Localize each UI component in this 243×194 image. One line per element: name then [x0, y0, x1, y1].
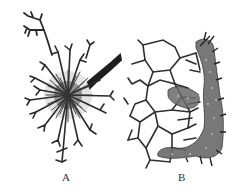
panel-label-a: A [62, 172, 70, 183]
panel-b-stipple-mass [158, 32, 226, 166]
illustration-figure [0, 0, 243, 194]
panel-label-b: B [178, 172, 185, 183]
panel-a-drawing [24, 12, 121, 162]
